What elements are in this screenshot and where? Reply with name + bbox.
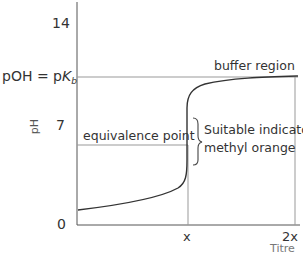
equivalence-point-label: equivalence point <box>83 130 195 143</box>
x-tick-x: x <box>183 230 191 243</box>
y-axis-title: pH <box>28 119 41 134</box>
x-axis-title: Titre <box>270 243 295 254</box>
buffer-region-label: buffer region <box>214 60 295 73</box>
y-tick-7: 7 <box>56 118 65 132</box>
y-label-pkb: pOH = pKb <box>2 69 77 86</box>
indicator-label-line2: methyl orange <box>204 142 296 155</box>
pkb-prefix: pOH = p <box>2 68 62 84</box>
pkb-sub: b <box>71 76 77 86</box>
pkb-k: K <box>62 68 71 84</box>
indicator-label-line1: Suitable indicator: <box>204 124 303 137</box>
y-tick-0: 0 <box>57 217 66 231</box>
y-tick-14: 14 <box>52 16 70 30</box>
